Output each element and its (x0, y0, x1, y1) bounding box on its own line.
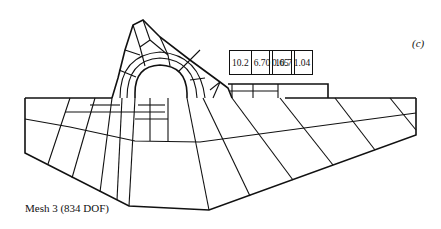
panel-label: (c) (412, 37, 424, 49)
value-cell: 10.2 (230, 51, 252, 74)
figure-caption: Mesh 3 (834 DOF) (25, 202, 109, 214)
finite-element-mesh (0, 0, 441, 229)
value-cell: 1.04 (292, 51, 313, 74)
value-box-group-2: 0.65 1.04 (269, 50, 313, 75)
value-cell: 0.65 (270, 51, 292, 74)
mesh-figure: 10.2 6.70 10.7 0.65 1.04 (c) Mesh 3 (834… (0, 0, 441, 229)
